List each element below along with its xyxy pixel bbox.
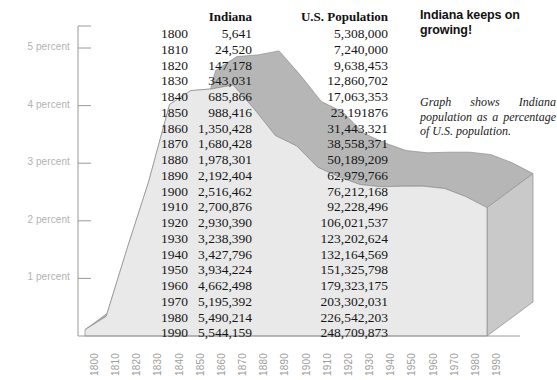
x-axis-label-1940: 1940 (385, 353, 396, 376)
cell-indiana-population: 3,934,224 (161, 262, 252, 278)
cell-indiana-population: 685,866 (161, 89, 252, 105)
cell-indiana-population: 3,427,796 (161, 247, 252, 263)
cell-us-population: 9,638,453 (256, 58, 388, 74)
cell-indiana-population: 5,641 (161, 26, 252, 42)
table-row: 19805,490,214226,542,203 (0, 310, 557, 326)
caption-text: Graph shows Indiana population as a perc… (420, 95, 556, 139)
table-row: 18801,978,30150,189,209 (0, 152, 557, 168)
x-axis-label-1860: 1860 (216, 353, 227, 376)
column-header-us-population: U.S. Population (256, 9, 388, 25)
cell-us-population: 38,558,371 (256, 136, 388, 152)
table-row: 19705,195,392203,302,031 (0, 294, 557, 310)
column-header-indiana: Indiana (161, 9, 252, 25)
cell-us-population: 248,709,873 (256, 325, 388, 341)
x-axis-label-1930: 1930 (364, 353, 375, 376)
cell-us-population: 31,443,321 (256, 121, 388, 137)
cell-us-population: 132,164,569 (256, 247, 388, 263)
x-axis-label-1800: 1800 (89, 353, 100, 376)
cell-indiana-population: 988,416 (161, 105, 252, 121)
x-axis-label-1990: 1990 (491, 353, 502, 376)
cell-us-population: 50,189,209 (256, 152, 388, 168)
x-axis-label-1920: 1920 (343, 353, 354, 376)
cell-us-population: 151,325,798 (256, 262, 388, 278)
cell-us-population: 76,212,168 (256, 184, 388, 200)
x-axis-label-1950: 1950 (406, 353, 417, 376)
cell-us-population: 12,860,702 (256, 73, 388, 89)
x-axis-label-1840: 1840 (174, 353, 185, 376)
x-axis-label-1870: 1870 (237, 353, 248, 376)
table-row: 19303,238,390123,202,624 (0, 231, 557, 247)
table-row: 19403,427,796132,164,569 (0, 247, 557, 263)
x-axis-label-1810: 1810 (110, 353, 121, 376)
cell-indiana-population: 2,700,876 (161, 199, 252, 215)
x-axis-label-1880: 1880 (258, 353, 269, 376)
cell-indiana-population: 2,930,390 (161, 215, 252, 231)
table-row: 1830343,03112,860,702 (0, 73, 557, 89)
cell-indiana-population: 2,516,462 (161, 184, 252, 200)
table-row: 18701,680,42838,558,371 (0, 136, 557, 152)
cell-us-population: 203,302,031 (256, 294, 388, 310)
cell-us-population: 23,191876 (256, 105, 388, 121)
cell-indiana-population: 5,544,159 (161, 325, 252, 341)
table-row: 1820147,1789,638,453 (0, 58, 557, 74)
x-axis-label-1900: 1900 (301, 353, 312, 376)
cell-indiana-population: 24,520 (161, 42, 252, 58)
headline-text: Indiana keeps on growing! (420, 8, 554, 37)
cell-us-population: 5,308,000 (256, 26, 388, 42)
cell-indiana-population: 5,490,214 (161, 310, 252, 326)
cell-us-population: 179,323,175 (256, 278, 388, 294)
chart-page: 1 percent2 percent3 percent4 percent5 pe… (0, 0, 557, 380)
cell-indiana-population: 5,195,392 (161, 294, 252, 310)
cell-indiana-population: 1,350,428 (161, 121, 252, 137)
cell-us-population: 106,021,537 (256, 215, 388, 231)
cell-indiana-population: 4,662,498 (161, 278, 252, 294)
cell-us-population: 7,240,000 (256, 42, 388, 58)
cell-us-population: 92,228,496 (256, 199, 388, 215)
cell-us-population: 17,063,353 (256, 89, 388, 105)
x-axis-label-1910: 1910 (322, 353, 333, 376)
x-axis-label-1980: 1980 (470, 353, 481, 376)
x-axis-label-1820: 1820 (131, 353, 142, 376)
cell-indiana-population: 343,031 (161, 73, 252, 89)
table-row: 19604,662,498179,323,175 (0, 278, 557, 294)
cell-indiana-population: 1,978,301 (161, 152, 252, 168)
table-row: 19905,544,159248,709,873 (0, 325, 557, 341)
table-row: 19102,700,87692,228,496 (0, 199, 557, 215)
cell-indiana-population: 147,178 (161, 58, 252, 74)
table-row: 19503,934,224151,325,798 (0, 262, 557, 278)
cell-indiana-population: 1,680,428 (161, 136, 252, 152)
cell-us-population: 226,542,203 (256, 310, 388, 326)
table-row: 19202,930,390106,021,537 (0, 215, 557, 231)
table-row: 18902,192,40462,979,766 (0, 168, 557, 184)
x-axis-label-1850: 1850 (195, 353, 206, 376)
cell-indiana-population: 2,192,404 (161, 168, 252, 184)
cell-us-population: 123,202,624 (256, 231, 388, 247)
cell-indiana-population: 3,238,390 (161, 231, 252, 247)
table-row: 19002,516,46276,212,168 (0, 184, 557, 200)
x-axis-label-1830: 1830 (152, 353, 163, 376)
x-axis-label-1970: 1970 (449, 353, 460, 376)
x-axis-label-1890: 1890 (279, 353, 290, 376)
cell-us-population: 62,979,766 (256, 168, 388, 184)
table-row: 181024,5207,240,000 (0, 42, 557, 58)
x-axis-label-1960: 1960 (428, 353, 439, 376)
